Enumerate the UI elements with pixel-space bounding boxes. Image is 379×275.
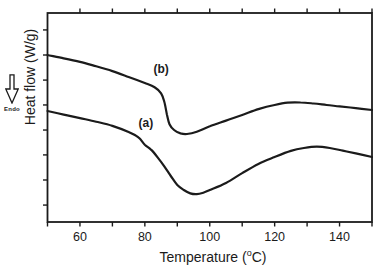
x-tick-label: 140 xyxy=(329,230,350,244)
y-axis-title: Heat flow (W/g) xyxy=(22,29,38,125)
dsc-chart: 6080100120140 (a)(b) xyxy=(0,0,379,275)
endo-indicator: Endo xyxy=(4,74,20,112)
x-tick-label: 120 xyxy=(264,230,285,244)
x-tick-label: 60 xyxy=(73,230,87,244)
x-axis-title-text: Temperature ( xyxy=(160,249,247,265)
curve-label-a: (a) xyxy=(138,116,153,130)
endo-label: Endo xyxy=(4,106,20,112)
endo-down-arrow-icon xyxy=(5,74,19,104)
x-tick-label: 100 xyxy=(199,230,220,244)
x-axis-title-unit: C) xyxy=(252,249,267,265)
x-tick-label: 80 xyxy=(138,230,152,244)
curve-label-b: (b) xyxy=(153,62,168,76)
curve-labels: (a)(b) xyxy=(138,62,168,130)
curve-a xyxy=(48,111,373,194)
dsc-thermogram-figure: 6080100120140 (a)(b) Heat flow (W/g) End… xyxy=(0,0,379,275)
axis-ticks xyxy=(43,9,372,227)
x-tick-labels: 6080100120140 xyxy=(73,230,350,244)
x-axis-title: Temperature (oC) xyxy=(160,249,267,265)
curves xyxy=(48,55,373,194)
